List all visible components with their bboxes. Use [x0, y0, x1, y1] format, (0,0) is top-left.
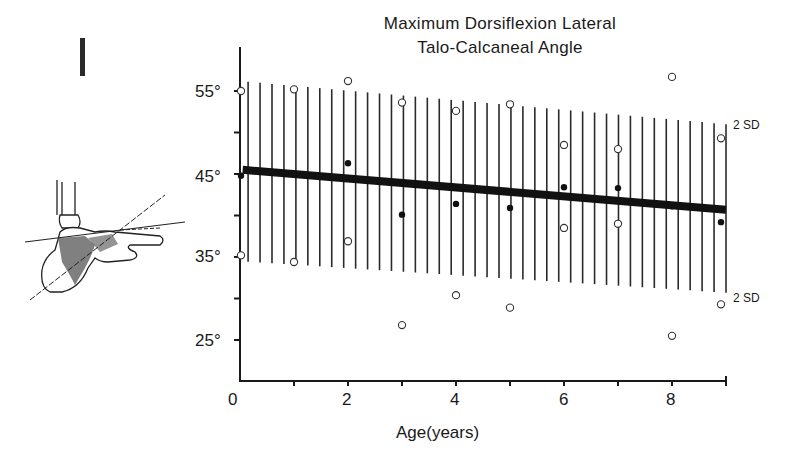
- x-tick-label-2: 2: [342, 390, 351, 409]
- sd-point: [237, 252, 244, 259]
- sd-point: [506, 101, 513, 108]
- y-tick-label-35: 35°: [195, 247, 221, 266]
- sd-point: [290, 258, 297, 265]
- regression-line: [243, 170, 726, 210]
- upper-2sd-label: 2 SD: [733, 118, 760, 132]
- mean-point: [291, 171, 297, 177]
- mean-point: [615, 185, 621, 191]
- foot-diagram: [25, 180, 185, 300]
- mean-point: [238, 172, 244, 178]
- sd-point: [344, 77, 351, 84]
- y-tick-label-25: 25°: [195, 331, 221, 350]
- x-tick-label-8: 8: [666, 390, 675, 409]
- x-tick-label-0: 0: [228, 390, 237, 409]
- mean-point: [345, 160, 351, 166]
- sd-point: [398, 321, 405, 328]
- sd-point: [452, 292, 459, 299]
- mean-point: [507, 205, 513, 211]
- sd-point: [506, 304, 513, 311]
- sd-point: [668, 332, 675, 339]
- x-tick-label-6: 6: [559, 390, 568, 409]
- sd-point: [668, 73, 675, 80]
- sd-point: [560, 141, 567, 148]
- sd-point: [290, 86, 297, 93]
- sd-point: [614, 220, 621, 227]
- lower-2sd-label: 2 SD: [733, 291, 760, 305]
- sd-point: [560, 224, 567, 231]
- sd-point: [398, 99, 405, 106]
- sd-point: [344, 238, 351, 245]
- sd-point: [237, 87, 244, 94]
- mean-point: [399, 211, 405, 217]
- y-tick-label-45: 45°: [195, 167, 221, 186]
- mean-point: [718, 219, 724, 225]
- sd-point: [717, 301, 724, 308]
- x-axis-title: Age(years): [396, 423, 479, 442]
- y-tick-label-55: 55°: [195, 82, 221, 101]
- x-tick-label-4: 4: [450, 390, 459, 409]
- mean-point: [561, 184, 567, 190]
- mean-point: [453, 201, 459, 207]
- sd-point: [614, 146, 621, 153]
- mean-point: [669, 203, 675, 209]
- chart-svg: 55° 45° 35° 25° 0 2 4 6 8 Age(years) 2 S…: [0, 0, 787, 454]
- sd-point: [717, 135, 724, 142]
- axes: [240, 47, 726, 381]
- sd-point: [452, 107, 459, 114]
